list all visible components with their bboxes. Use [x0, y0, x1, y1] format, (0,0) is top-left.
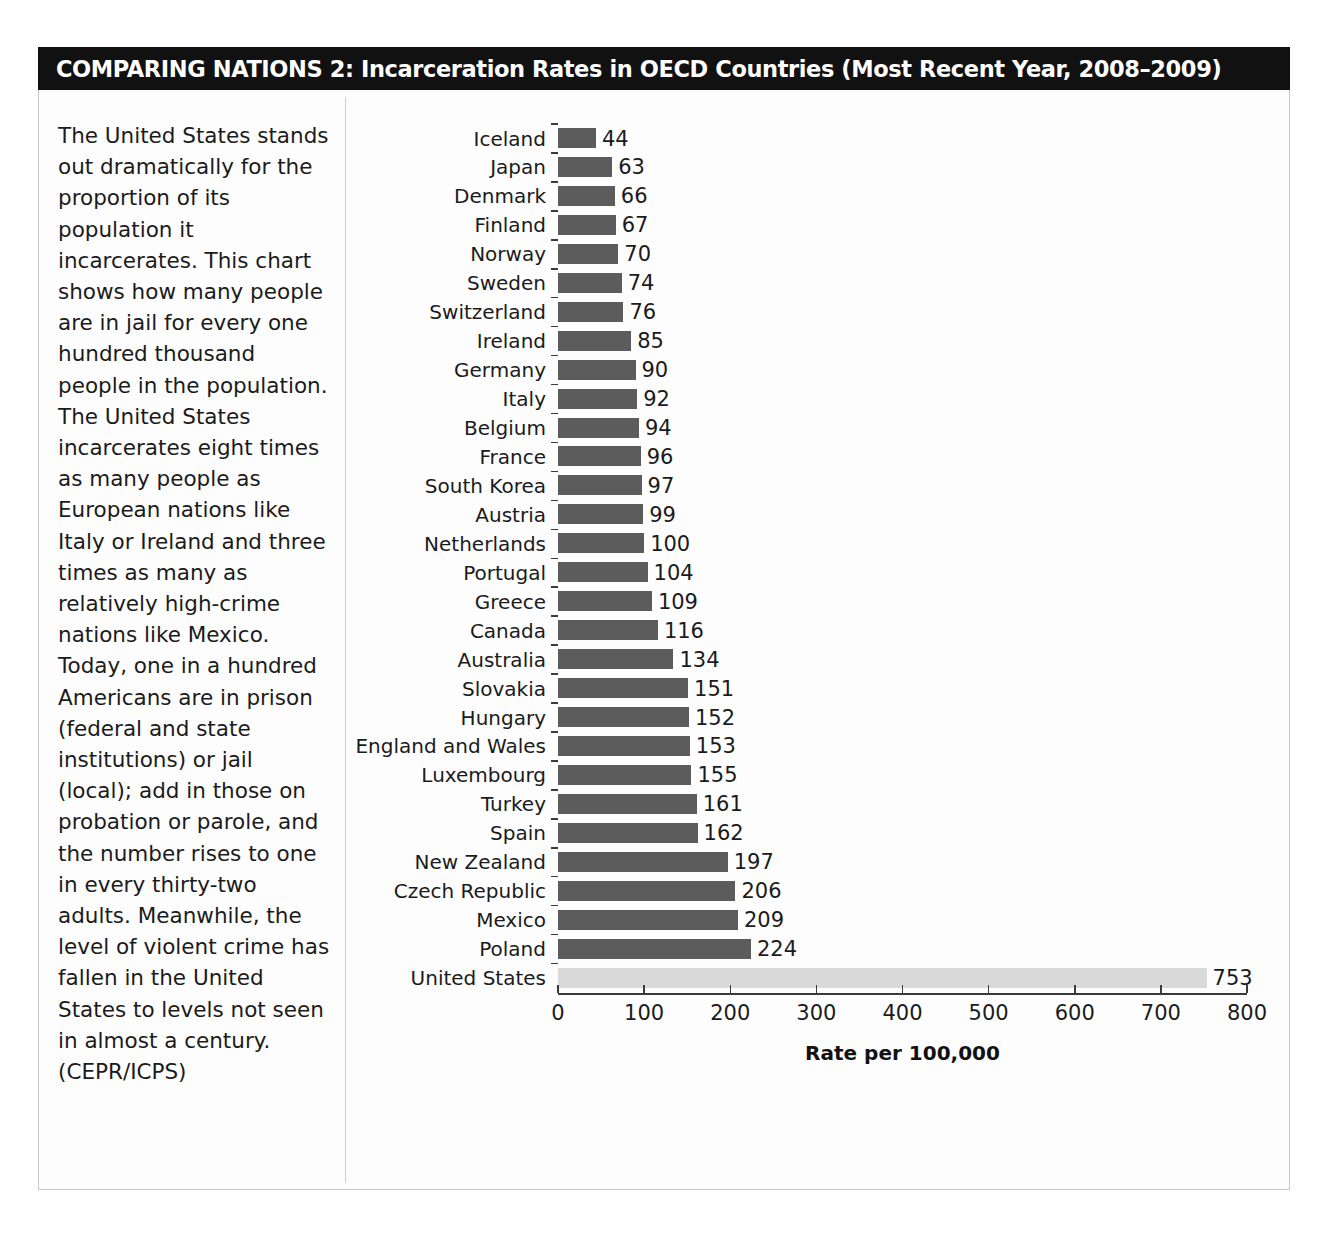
bar-category-label: Slovakia: [462, 677, 546, 701]
bar-row: Switzerland76: [350, 298, 1325, 327]
bar: [558, 736, 690, 756]
bar-row: Slovakia151: [350, 674, 1325, 703]
bar-row: Ireland85: [350, 327, 1325, 356]
bar-category-label: Spain: [490, 821, 546, 845]
x-axis-tick-label: 100: [624, 1001, 664, 1025]
bar-value-label: 67: [622, 213, 649, 237]
bar-value-label: 76: [629, 300, 656, 324]
bar-row: Japan63: [350, 153, 1325, 182]
bar-row: England and Wales153: [350, 732, 1325, 761]
y-axis-tick: [551, 239, 558, 241]
bar-value-label: 116: [664, 619, 704, 643]
bar: [558, 562, 648, 582]
x-axis-tick: [1074, 985, 1076, 993]
bar-row: Netherlands100: [350, 529, 1325, 558]
bar-category-label: Greece: [475, 590, 546, 614]
bar-value-label: 96: [647, 445, 674, 469]
y-axis-tick: [551, 384, 558, 386]
bar: [558, 678, 688, 698]
bar-row: Czech Republic206: [350, 877, 1325, 906]
y-axis-tick: [551, 268, 558, 270]
bar: [558, 823, 698, 843]
bar-value-label: 66: [621, 184, 648, 208]
bar-category-label: Turkey: [481, 792, 546, 816]
bar-category-label: Iceland: [474, 127, 546, 151]
bar-category-label: Germany: [454, 358, 546, 382]
bar-value-label: 100: [650, 532, 690, 556]
bar-row: Denmark66: [350, 182, 1325, 211]
bar-row: Italy92: [350, 385, 1325, 414]
bar-row: Norway70: [350, 240, 1325, 269]
y-axis-tick: [551, 210, 558, 212]
x-axis-tick: [816, 985, 818, 993]
bar-category-label: Canada: [470, 619, 546, 643]
bar-row: Luxembourg155: [350, 761, 1325, 790]
bar: [558, 881, 735, 901]
y-axis-tick: [551, 442, 558, 444]
bar-row: Sweden74: [350, 269, 1325, 298]
bar: [558, 794, 697, 814]
title-band: COMPARING NATIONS 2: Incarceration Rates…: [38, 47, 1290, 90]
bar-row: Australia134: [350, 645, 1325, 674]
bar-value-label: 74: [628, 271, 655, 295]
x-axis-tick-label: 800: [1227, 1001, 1267, 1025]
y-axis-tick: [551, 123, 558, 125]
bar-value-label: 63: [618, 155, 645, 179]
column-divider: [345, 97, 346, 1183]
bar-chart: Iceland44Japan63Denmark66Finland67Norway…: [350, 97, 1285, 1183]
y-axis-tick: [551, 934, 558, 936]
bar-row: Canada116: [350, 616, 1325, 645]
bar: [558, 331, 631, 351]
figure-panel: COMPARING NATIONS 2: Incarceration Rates…: [0, 0, 1325, 1239]
x-axis-title: Rate per 100,000: [805, 1041, 1000, 1065]
bar-category-label: Mexico: [476, 908, 546, 932]
y-axis-tick: [551, 789, 558, 791]
bar-row: Mexico209: [350, 906, 1325, 935]
bar-value-label: 162: [704, 821, 744, 845]
bar-value-label: 70: [624, 242, 651, 266]
x-axis-tick-label: 500: [969, 1001, 1009, 1025]
bar-row: Poland224: [350, 935, 1325, 964]
bar: [558, 302, 623, 322]
bar-value-label: 161: [703, 792, 743, 816]
y-axis-tick: [551, 760, 558, 762]
bar-category-label: Austria: [475, 503, 546, 527]
bar: [558, 533, 644, 553]
y-axis-tick: [551, 586, 558, 588]
bar: [558, 939, 751, 959]
bar-category-label: United States: [411, 966, 546, 990]
bar-category-label: Luxembourg: [421, 763, 546, 787]
y-axis-tick: [551, 818, 558, 820]
bar-category-label: Switzerland: [429, 300, 546, 324]
bar-category-label: Czech Republic: [394, 879, 546, 903]
y-axis-tick: [551, 297, 558, 299]
bar-category-label: England and Wales: [355, 734, 546, 758]
bar-value-label: 92: [643, 387, 670, 411]
bar-value-label: 224: [757, 937, 797, 961]
bar-row: Spain162: [350, 819, 1325, 848]
y-axis-tick: [551, 558, 558, 560]
y-axis-tick: [551, 673, 558, 675]
bar-category-label: Netherlands: [424, 532, 546, 556]
x-axis-tick: [988, 985, 990, 993]
bar-value-label: 152: [695, 706, 735, 730]
bar: [558, 157, 612, 177]
x-axis-tick-label: 400: [882, 1001, 922, 1025]
y-axis-tick: [551, 876, 558, 878]
x-axis-tick: [730, 985, 732, 993]
bar: [558, 446, 641, 466]
y-axis-tick: [551, 152, 558, 154]
x-axis-tick: [1246, 985, 1248, 993]
bar: [558, 418, 639, 438]
y-axis-tick: [551, 731, 558, 733]
y-axis-tick: [551, 615, 558, 617]
bar-row: Hungary152: [350, 703, 1325, 732]
bar-row: South Korea97: [350, 471, 1325, 500]
x-axis-tick-label: 200: [710, 1001, 750, 1025]
bar-value-label: 206: [741, 879, 781, 903]
bar-value-label: 99: [649, 503, 676, 527]
x-axis-tick-label: 700: [1141, 1001, 1181, 1025]
bar-value-label: 109: [658, 590, 698, 614]
y-axis-tick: [551, 702, 558, 704]
bar-value-label: 151: [694, 677, 734, 701]
